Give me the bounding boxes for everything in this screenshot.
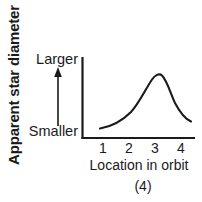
- x-axis-tick-labels: 1 2 3 4: [82, 140, 196, 156]
- apparent-diameter-curve: [100, 74, 191, 128]
- figure-caption: (4): [108, 178, 178, 194]
- apparent-star-diameter-figure: Apparent star diameter Larger Smaller 1 …: [0, 0, 202, 202]
- x-tick-label-3: 3: [145, 140, 165, 156]
- x-tick-label-4: 4: [171, 140, 191, 156]
- x-axis-title: Location in orbit: [78, 157, 200, 173]
- x-tick-label-2: 2: [119, 140, 139, 156]
- x-tick-label-1: 1: [93, 140, 113, 156]
